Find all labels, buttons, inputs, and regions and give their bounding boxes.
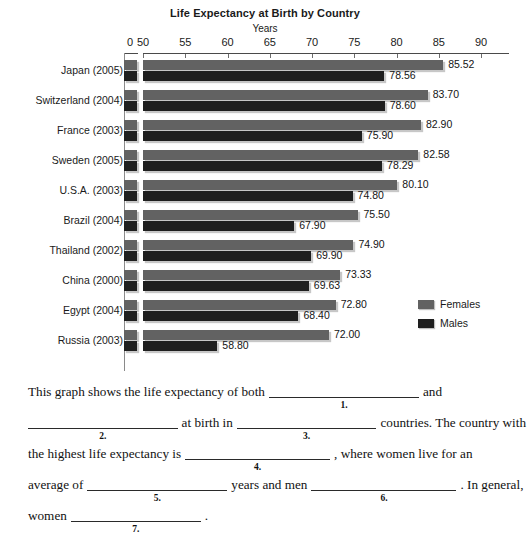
bar-value-female: 75.50 (363, 208, 389, 220)
bar-male (143, 161, 382, 171)
bar-female (143, 150, 418, 160)
bar-stub-male (124, 221, 137, 231)
legend-label: Males (440, 317, 468, 329)
x-tick-label-70: 70 (306, 36, 318, 48)
bar-stub-female (124, 60, 137, 70)
bar-value-male: 58.80 (222, 339, 248, 351)
answer-blank-3[interactable]: 3. (237, 413, 377, 429)
category-label: Japan (2005) (3, 64, 123, 76)
bar-male (143, 131, 362, 141)
blank-number: 1. (340, 395, 347, 415)
bar-male (143, 281, 309, 291)
x-tick-label-55: 55 (179, 36, 191, 48)
blank-number: 3. (303, 426, 310, 446)
bar-value-female: 85.52 (448, 58, 474, 70)
chart-title: Life Expectancy at Birth by Country (0, 7, 530, 19)
bar-row: Thailand (2002)74.9069.90 (0, 238, 530, 268)
bar-stub-female (124, 150, 137, 160)
bar-row: U.S.A. (2003)80.1074.80 (0, 178, 530, 208)
category-label: Sweden (2005) (3, 154, 123, 166)
bar-value-male: 78.29 (387, 159, 413, 171)
exercise-text-fragment: This graph shows the life expectancy of … (28, 382, 265, 402)
x-tick-label-80: 80 (390, 36, 402, 48)
exercise-line: average of5.years and men6.. In general, (0, 475, 530, 506)
bar-stub-male (124, 191, 137, 201)
axis-main-segment (143, 53, 509, 54)
bar-value-female: 82.58 (423, 148, 449, 160)
legend-item: Females (418, 296, 480, 312)
bar-value-male: 67.90 (299, 219, 325, 231)
bar-value-male: 75.90 (367, 129, 393, 141)
bar-stub-female (124, 330, 137, 340)
bar-value-female: 80.10 (402, 178, 428, 190)
bar-row: China (2000)73.3369.63 (0, 268, 530, 298)
exercise-line: women7.. (0, 506, 530, 537)
bar-value-female: 72.80 (341, 298, 367, 310)
bar-stub-female (124, 180, 137, 190)
exercise-text: This graph shows the life expectancy of … (0, 382, 530, 546)
exercise-text-fragment: at birth in (182, 413, 233, 433)
bar-row: Brazil (2004)75.5067.90 (0, 208, 530, 238)
answer-blank-5[interactable]: 5. (87, 475, 227, 491)
bar-stub-female (124, 270, 137, 280)
legend-swatch-females (418, 300, 434, 309)
exercise-line: 2.at birth in3.countries. The country wi… (0, 413, 530, 444)
bar-value-male: 68.40 (303, 309, 329, 321)
bar-male (143, 251, 311, 261)
bar-value-male: 69.90 (316, 249, 342, 261)
bar-stub-female (124, 300, 137, 310)
bar-male (143, 71, 384, 81)
legend-item: Males (418, 315, 480, 331)
x-tick-label-90: 90 (475, 36, 487, 48)
bar-stub-male (124, 251, 137, 261)
bar-value-female: 72.00 (334, 328, 360, 340)
category-label: Switzerland (2004) (3, 94, 123, 106)
blank-number: 5. (154, 488, 161, 508)
category-label: Egypt (2004) (3, 304, 123, 316)
blank-number: 6. (380, 488, 387, 508)
bar-value-male: 74.80 (358, 189, 384, 201)
bar-value-male: 69.63 (314, 279, 340, 291)
chart-legend: FemalesMales (418, 296, 480, 334)
exercise-text-fragment: . In general, (460, 475, 523, 495)
exercise-text-fragment: years and men (231, 475, 307, 495)
category-label: U.S.A. (2003) (3, 184, 123, 196)
category-label: China (2000) (3, 274, 123, 286)
exercise-line: This graph shows the life expectancy of … (0, 382, 530, 413)
answer-blank-7[interactable]: 7. (71, 506, 201, 522)
exercise-text-fragment: . (205, 506, 208, 526)
x-axis-label: Years (0, 23, 530, 34)
bar-value-female: 82.90 (426, 118, 452, 130)
bar-stub-male (124, 131, 137, 141)
category-label: Russia (2003) (3, 334, 123, 346)
bar-stub-female (124, 120, 137, 130)
answer-blank-1[interactable]: 1. (269, 382, 419, 398)
bar-stub-male (124, 281, 137, 291)
answer-blank-6[interactable]: 6. (311, 475, 456, 491)
bar-stub-male (124, 161, 137, 171)
answer-blank-4[interactable]: 4. (185, 444, 330, 460)
bar-row: Japan (2005)85.5278.56 (0, 58, 530, 88)
bar-stub-female (124, 90, 137, 100)
bar-female (143, 90, 428, 100)
exercise-text-fragment: and (423, 382, 442, 402)
bar-value-male: 78.56 (389, 69, 415, 81)
bar-female (143, 210, 358, 220)
bar-male (143, 341, 217, 351)
bar-male (143, 191, 353, 201)
blank-number: 7. (132, 519, 139, 539)
bar-stub-female (124, 240, 137, 250)
x-tick-label-50: 50 (137, 36, 149, 48)
category-label: Thailand (2002) (3, 244, 123, 256)
bar-row: Switzerland (2004)83.7078.60 (0, 88, 530, 118)
bar-row: Sweden (2005)82.5878.29 (0, 148, 530, 178)
axis-zero-segment (124, 53, 138, 54)
exercise-text-fragment: countries. The country with (380, 413, 526, 433)
blank-number: 4. (254, 457, 261, 477)
answer-blank-2[interactable]: 2. (28, 413, 178, 429)
bar-stub-male (124, 71, 137, 81)
x-tick-label-0: 0 (127, 36, 133, 48)
legend-swatch-males (418, 319, 434, 328)
exercise-text-fragment: average of (28, 475, 83, 495)
bar-value-female: 83.70 (433, 88, 459, 100)
